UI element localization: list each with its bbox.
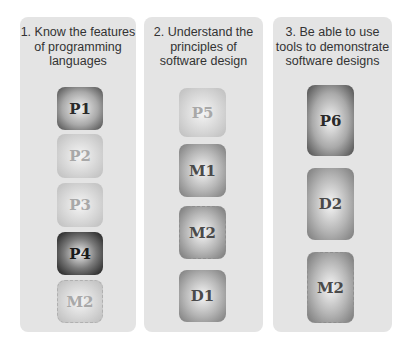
criterion-p1[interactable]: P1 xyxy=(57,87,103,130)
title-line: 3. Be able to use xyxy=(273,25,392,40)
criterion-m2[interactable]: M2 xyxy=(179,206,226,259)
criterion-label: D1 xyxy=(191,287,214,305)
criterion-p2[interactable]: P2 xyxy=(57,134,103,178)
column-2-title: 2. Understand the principles of software… xyxy=(144,25,263,69)
criterion-label: M1 xyxy=(189,162,216,180)
criterion-label: P6 xyxy=(320,112,342,130)
title-line: 1. Know the features xyxy=(20,25,136,40)
column-3-title: 3. Be able to use tools to demonstrate s… xyxy=(273,25,392,69)
criterion-p6[interactable]: P6 xyxy=(307,85,354,156)
title-line: principles of xyxy=(144,40,263,55)
criterion-m2[interactable]: M2 xyxy=(57,280,103,323)
criterion-label: M2 xyxy=(317,279,344,297)
criterion-label: P4 xyxy=(69,245,91,263)
criterion-label: P5 xyxy=(192,104,214,122)
criterion-m2[interactable]: M2 xyxy=(307,252,354,323)
criterion-p4[interactable]: P4 xyxy=(57,232,103,275)
criterion-label: D2 xyxy=(319,195,342,213)
title-line: 2. Understand the xyxy=(144,25,263,40)
title-line: software design xyxy=(144,54,263,69)
criterion-d1[interactable]: D1 xyxy=(179,270,226,322)
column-1-title: 1. Know the features of programming lang… xyxy=(20,25,136,69)
criterion-label: P1 xyxy=(69,100,91,118)
title-line: of programming xyxy=(20,40,136,55)
criterion-label: M2 xyxy=(189,224,216,242)
title-line: tools to demonstrate xyxy=(273,40,392,55)
title-line: software designs xyxy=(273,54,392,69)
criterion-d2[interactable]: D2 xyxy=(307,168,354,240)
criterion-m1[interactable]: M1 xyxy=(179,144,226,197)
criterion-label: M2 xyxy=(66,293,93,311)
column-1-panel: 1. Know the features of programming lang… xyxy=(20,17,136,332)
criterion-label: P3 xyxy=(69,196,91,214)
column-2-panel: 2. Understand the principles of software… xyxy=(144,17,263,332)
criterion-p3[interactable]: P3 xyxy=(57,183,103,227)
criterion-p5[interactable]: P5 xyxy=(179,88,226,137)
column-3-panel: 3. Be able to use tools to demonstrate s… xyxy=(273,17,392,332)
title-line: languages xyxy=(20,54,136,69)
criterion-label: P2 xyxy=(69,147,91,165)
